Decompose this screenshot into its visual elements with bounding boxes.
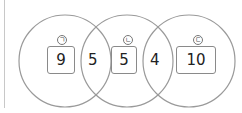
overlap-left-middle: 5: [88, 51, 98, 69]
circle-label-1: ㄱ: [57, 35, 67, 45]
circle-value-3: 10: [176, 46, 216, 74]
circle-value-1: 9: [47, 46, 75, 74]
circle-label-3: ㄷ: [193, 35, 203, 45]
circle-value-2: 5: [111, 46, 137, 74]
overlap-middle-right: 4: [150, 51, 160, 69]
circle-label-2: ㄴ: [123, 35, 133, 45]
